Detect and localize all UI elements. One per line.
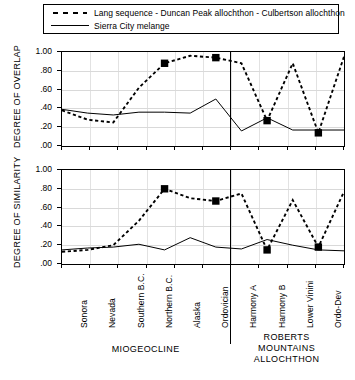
legend-label-sierra-city: Sierra City melange <box>94 21 170 31</box>
y-tick-label-bottom: .00 <box>26 259 52 267</box>
y-tick-mark <box>57 126 61 127</box>
x-tick-mark <box>315 146 316 150</box>
y-tick-label-top: .80 <box>26 66 52 74</box>
y-tick-label-top: 1.00 <box>26 47 52 55</box>
data-point-marker <box>263 246 270 253</box>
x-tick-mark <box>202 146 203 150</box>
chart-similarity-plot-area <box>61 169 345 265</box>
legend-entry-lang-sequence: Lang sequence - Duncan Peak allochthon -… <box>49 7 345 19</box>
y-tick-mark <box>57 107 61 108</box>
y-axis-title-top: DEGREE OF OVERLAP <box>12 45 22 148</box>
y-tick-label-top: .60 <box>26 85 52 93</box>
legend: Lang sequence - Duncan Peak allochthon -… <box>43 4 339 34</box>
x-tick-mark <box>202 264 203 268</box>
x-tick-mark <box>61 264 62 268</box>
figure-root: Lang sequence - Duncan Peak allochthon -… <box>0 0 355 380</box>
y-tick-mark <box>57 51 61 52</box>
y-axis-title-bottom: DEGREE OF SIMILARITY <box>12 156 22 268</box>
x-category-label-northern-b-c: Northern B.C. <box>164 275 174 328</box>
x-tick-mark <box>61 146 62 150</box>
y-tick-label-bottom: .20 <box>26 240 52 248</box>
legend-entry-sierra-city: Sierra City melange <box>49 20 170 32</box>
y-tick-label-top: .40 <box>26 103 52 111</box>
y-tick-mark <box>57 225 61 226</box>
y-tick-mark <box>57 89 61 90</box>
x-tick-mark <box>89 146 90 150</box>
x-tick-mark <box>146 146 147 150</box>
x-category-label-alaska: Alaska <box>192 302 202 328</box>
solid-line-icon <box>49 21 91 31</box>
x-tick-mark <box>315 264 316 268</box>
series-line-sierra-city <box>62 99 344 131</box>
y-tick-mark <box>57 169 61 170</box>
x-tick-mark <box>117 264 118 268</box>
group-label-line: ROBERTS <box>230 332 343 343</box>
series-line-sierra-city <box>62 238 344 251</box>
data-point-marker <box>212 54 219 61</box>
data-point-marker <box>212 197 219 204</box>
y-tick-label-top: .00 <box>26 141 52 149</box>
chart-overlap-plot-area <box>61 51 345 147</box>
y-tick-mark <box>57 207 61 208</box>
x-tick-mark <box>258 146 259 150</box>
x-tick-mark <box>117 146 118 150</box>
y-tick-label-top: .20 <box>26 122 52 130</box>
y-tick-label-bottom: .80 <box>26 184 52 192</box>
x-tick-mark <box>287 264 288 268</box>
x-category-label-harmony-a: Harmony A <box>248 285 258 328</box>
x-category-label-southern-b-c: Southern B.C. <box>136 273 146 328</box>
x-tick-mark <box>343 264 344 268</box>
x-category-label-ordo-dev: Ordo-Dev <box>333 290 343 328</box>
chart-overlap-series-layer <box>62 52 344 146</box>
x-category-label-sonora: Sonora <box>79 300 89 328</box>
x-tick-mark <box>174 146 175 150</box>
x-tick-mark <box>258 264 259 268</box>
dashed-line-icon <box>49 8 91 18</box>
series-line-lang-sequence <box>62 56 344 133</box>
y-tick-label-bottom: .60 <box>26 203 52 211</box>
y-tick-mark <box>57 70 61 71</box>
data-point-marker <box>161 60 168 67</box>
chart-similarity-series-layer <box>62 170 344 264</box>
x-tick-mark <box>174 264 175 268</box>
y-tick-label-bottom: .40 <box>26 221 52 229</box>
group-label-miogeocline: MIOGEOCLINE <box>61 344 230 355</box>
x-tick-mark <box>89 264 90 268</box>
x-category-label-lower-vinini: Lower Vinini <box>305 281 315 328</box>
group-divider-line <box>230 51 231 147</box>
y-tick-mark <box>57 188 61 189</box>
data-point-marker <box>161 185 168 192</box>
y-tick-label-bottom: 1.00 <box>26 165 52 173</box>
group-label-line: MOUNTAINS <box>230 343 343 354</box>
group-label-line: ALLOCHTHON <box>230 354 343 365</box>
x-category-label-ordovician: Ordovician <box>220 286 230 328</box>
x-tick-mark <box>146 264 147 268</box>
x-tick-mark <box>343 146 344 150</box>
x-category-label-harmony-b: Harmony B <box>277 285 287 328</box>
y-tick-mark <box>57 244 61 245</box>
x-tick-mark <box>287 146 288 150</box>
legend-label-lang-sequence: Lang sequence - Duncan Peak allochthon -… <box>94 8 345 18</box>
group-divider-line <box>230 169 231 265</box>
group-label-roberts-mountains-allochthon: ROBERTSMOUNTAINSALLOCHTHON <box>230 332 343 365</box>
x-category-label-nevada: Nevada <box>107 298 117 328</box>
